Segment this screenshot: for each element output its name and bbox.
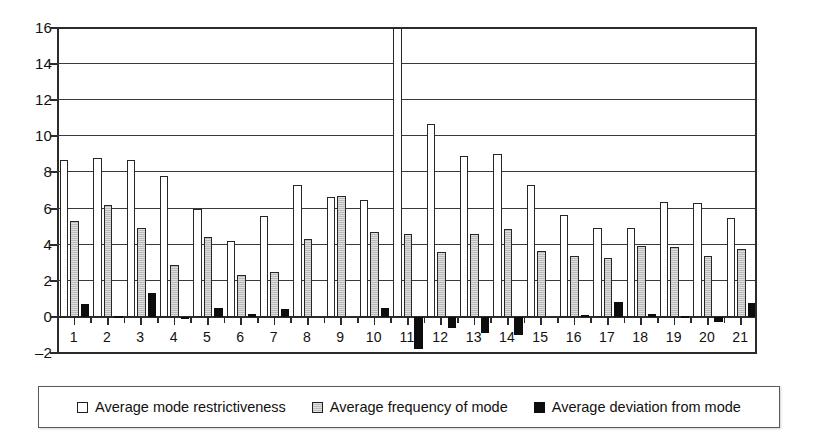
gray-square-swatch-icon (312, 402, 323, 413)
bar (93, 158, 102, 317)
x-tick-mark (290, 318, 292, 323)
x-tick-mark (140, 318, 142, 325)
bar (104, 205, 113, 317)
bar (648, 314, 657, 317)
x-tick-label: 16 (557, 330, 590, 344)
bar-group (727, 28, 757, 353)
chart-figure: –20246810121416 123456789101112131415161… (0, 0, 816, 446)
bar (360, 200, 369, 317)
bar (127, 160, 136, 317)
bar (493, 154, 502, 317)
x-tick-mark (640, 318, 642, 325)
x-tick-mark (107, 318, 109, 325)
y-tick-mark (50, 280, 57, 282)
bar-group (560, 28, 590, 353)
bar (270, 272, 279, 317)
bar-group (260, 28, 290, 353)
legend-label: Average mode restrictiveness (95, 399, 286, 415)
x-tick-mark (707, 318, 709, 325)
bar-group (93, 28, 123, 353)
x-tick-mark (490, 318, 492, 323)
bar-group (493, 28, 523, 353)
bar (81, 304, 90, 317)
bar-group (460, 28, 490, 353)
bar (160, 176, 169, 317)
y-axis-tick-labels: –20246810121416 (12, 0, 52, 372)
chart-legend: Average mode restrictiveness Average fre… (38, 386, 780, 428)
y-tick-label: 4 (18, 237, 52, 252)
bar (181, 317, 190, 319)
bar-group (327, 28, 357, 353)
bar-group (293, 28, 323, 353)
y-tick-mark (50, 27, 57, 29)
x-tick-label: 20 (690, 330, 723, 344)
y-tick-label: 2 (18, 273, 52, 288)
bar (714, 317, 723, 322)
x-tick-mark (424, 318, 426, 323)
x-tick-mark (607, 318, 609, 325)
bar (737, 249, 746, 317)
bar (370, 232, 379, 317)
legend-item: Average deviation from mode (534, 399, 741, 415)
bar (704, 256, 713, 317)
bar (204, 237, 213, 316)
x-tick-label: 13 (457, 330, 490, 344)
x-tick-mark (124, 318, 126, 323)
x-tick-label: 1 (57, 330, 90, 344)
bar-group (593, 28, 623, 353)
bar-group (60, 28, 90, 353)
bar-group (627, 28, 657, 353)
x-tick-mark (274, 318, 276, 325)
bar-group (360, 28, 390, 353)
bar (293, 185, 302, 317)
bar (227, 241, 236, 317)
bar (427, 124, 436, 317)
x-tick-mark (407, 318, 409, 325)
x-tick-label: 2 (90, 330, 123, 344)
x-tick-mark (624, 318, 626, 323)
bar (137, 228, 146, 316)
x-tick-label: 8 (290, 330, 323, 344)
bar (637, 246, 646, 316)
x-tick-mark (157, 318, 159, 323)
y-tick-mark (50, 244, 57, 246)
legend-item: Average mode restrictiveness (77, 399, 286, 415)
x-tick-label: 3 (124, 330, 157, 344)
bar (460, 156, 469, 317)
x-tick-mark (740, 318, 742, 325)
x-tick-label: 14 (490, 330, 523, 344)
x-tick-label: 6 (224, 330, 257, 344)
plot-area: –20246810121416 123456789101112131415161… (0, 0, 816, 372)
y-tick-label: 8 (18, 164, 52, 179)
x-tick-mark (324, 318, 326, 323)
bar (670, 247, 679, 317)
x-tick-mark (507, 318, 509, 325)
y-tick-mark (50, 99, 57, 101)
y-tick-label: 6 (18, 201, 52, 216)
y-tick-mark (50, 316, 57, 318)
y-tick-mark (50, 63, 57, 65)
bar (214, 308, 223, 317)
bar (170, 265, 179, 317)
x-tick-label: 17 (590, 330, 623, 344)
legend-item: Average frequency of mode (312, 399, 508, 415)
x-tick-mark (174, 318, 176, 325)
bar (404, 234, 413, 317)
bar (660, 202, 669, 317)
bar (60, 160, 69, 317)
bar-group (427, 28, 457, 353)
bar (114, 316, 123, 318)
bar (570, 256, 579, 317)
bar-group (527, 28, 557, 353)
bar (727, 218, 736, 316)
white-square-swatch-icon (77, 402, 88, 413)
x-tick-label: 10 (357, 330, 390, 344)
y-tick-mark (50, 171, 57, 173)
bar-group (160, 28, 190, 353)
x-tick-mark (307, 318, 309, 325)
x-tick-mark (390, 318, 392, 323)
x-tick-mark (207, 318, 209, 325)
bar (504, 229, 513, 317)
x-tick-mark (724, 318, 726, 323)
bar (470, 234, 479, 317)
